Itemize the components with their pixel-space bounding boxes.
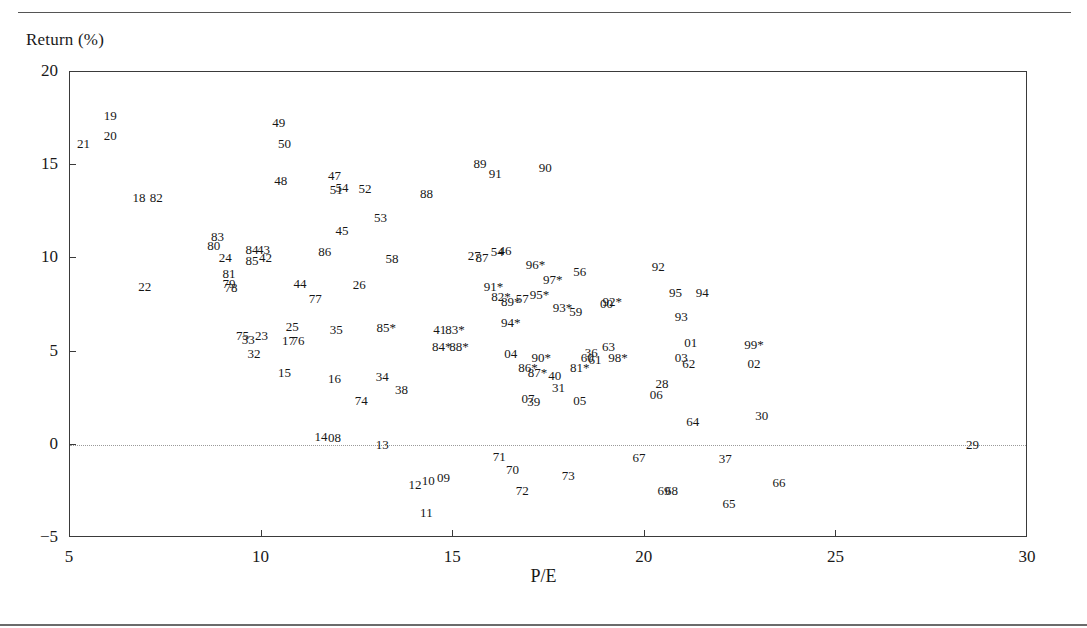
y-axis-tick-mark	[69, 444, 76, 445]
data-point-label: 05	[573, 394, 586, 407]
data-point-label: 20	[104, 129, 117, 142]
x-axis-tick-label: 5	[65, 547, 74, 567]
data-point-label: 67	[633, 450, 646, 463]
data-point-label: 12	[408, 477, 421, 490]
y-axis-tick-label: 0	[14, 434, 58, 454]
data-point-label: 91	[489, 166, 502, 179]
top-divider-rule	[18, 12, 1071, 13]
data-point-label: 97*	[543, 272, 563, 285]
data-point-label: 99*	[744, 338, 764, 351]
x-axis-tick-mark	[835, 530, 836, 537]
data-point-label: 82	[150, 190, 163, 203]
data-point-label: 50	[278, 136, 291, 149]
data-point-label: 76	[292, 334, 305, 347]
x-axis-tick-label: 10	[252, 547, 269, 567]
data-point-label: 68	[665, 483, 678, 496]
data-point-label: 19	[104, 108, 117, 121]
data-point-label: 52	[359, 181, 372, 194]
data-point-label: 62	[682, 356, 695, 369]
data-point-label: 04	[504, 347, 517, 360]
data-point-label: 34	[376, 369, 389, 382]
y-axis-title: Return (%)	[26, 30, 104, 50]
data-point-label: 44	[293, 276, 306, 289]
data-point-label: 14	[314, 430, 327, 443]
data-point-label: 54	[336, 180, 349, 193]
data-point-label: 31	[552, 381, 565, 394]
data-point-label: 89	[474, 157, 487, 170]
x-axis-tick-mark	[644, 530, 645, 537]
data-point-label: 49	[272, 116, 285, 129]
data-point-label: 26	[353, 278, 366, 291]
data-point-label: 88	[420, 187, 433, 200]
data-point-label: 02	[748, 356, 761, 369]
data-point-label: 22	[138, 280, 151, 293]
data-point-label: 32	[247, 347, 260, 360]
data-point-label: 53	[374, 211, 387, 224]
y-axis-tick-label: 15	[14, 154, 58, 174]
data-point-label: 15	[278, 366, 291, 379]
y-axis-tick-mark	[69, 351, 76, 352]
x-axis-tick-label: 20	[635, 547, 652, 567]
data-point-label: 13	[376, 437, 389, 450]
data-point-label: 58	[385, 252, 398, 265]
data-point-label: 74	[355, 394, 368, 407]
data-point-label: 29	[966, 437, 979, 450]
data-point-label: 25	[286, 319, 299, 332]
data-point-label: 96*	[526, 257, 546, 270]
data-point-label: 70	[506, 463, 519, 476]
data-point-label: 65	[723, 496, 736, 509]
data-point-label: 45	[336, 224, 349, 237]
data-point-label: 85*	[376, 321, 396, 334]
data-point-label: 95*	[530, 287, 550, 300]
data-point-label: 30	[755, 408, 768, 421]
x-axis-tick-label: 25	[827, 547, 844, 567]
data-point-label: 85	[246, 254, 259, 267]
data-point-label: 57	[516, 291, 529, 304]
data-point-label: 16	[328, 371, 341, 384]
data-point-label: 23	[255, 328, 268, 341]
data-point-label: 10	[422, 474, 435, 487]
zero-reference-line	[70, 445, 1026, 446]
x-axis-title: P/E	[0, 566, 1087, 587]
plot-area: 2119201882228380248179788443428549504847…	[69, 71, 1027, 537]
data-point-label: 72	[516, 483, 529, 496]
data-point-label: 90	[539, 161, 552, 174]
data-point-label: 21	[77, 136, 90, 149]
data-point-label: 71	[493, 449, 506, 462]
data-point-label: 64	[686, 414, 699, 427]
y-axis-tick-label: 10	[14, 247, 58, 267]
data-point-label: 93	[675, 310, 688, 323]
data-point-label: 77	[309, 291, 322, 304]
data-point-label: 38	[395, 382, 408, 395]
x-axis-tick-label: 15	[444, 547, 461, 567]
data-point-label: 94*	[501, 315, 521, 328]
data-point-label: 09	[437, 471, 450, 484]
data-point-label: 56	[573, 265, 586, 278]
y-axis-tick-mark	[69, 164, 76, 165]
y-axis-tick-label: 5	[14, 341, 58, 361]
data-point-label: 46	[498, 244, 511, 257]
data-point-label: 78	[224, 281, 237, 294]
scatter-plot-figure: Return (%) 21192018822283802481797884434…	[0, 0, 1087, 628]
data-point-label: 87	[475, 250, 488, 263]
data-point-label: 87*	[528, 366, 548, 379]
data-point-label: 95	[669, 285, 682, 298]
data-point-label: 06	[650, 388, 663, 401]
data-point-label: 92	[652, 259, 665, 272]
data-point-label: 88*	[449, 340, 469, 353]
data-point-label: 01	[684, 336, 697, 349]
data-point-label: 66	[772, 476, 785, 489]
data-point-label: 48	[274, 174, 287, 187]
data-point-label: 61	[588, 353, 601, 366]
data-point-label: 42	[259, 250, 272, 263]
data-point-label: 41	[433, 323, 446, 336]
data-point-label: 18	[132, 190, 145, 203]
data-point-label: 59	[569, 304, 582, 317]
y-axis-tick-label: −5	[14, 527, 58, 547]
data-point-label: 94	[696, 285, 709, 298]
data-point-label: 83*	[445, 323, 465, 336]
x-axis-tick-mark	[261, 530, 262, 537]
y-axis-tick-mark	[69, 257, 76, 258]
data-point-label: 24	[219, 250, 232, 263]
x-axis-tick-label: 30	[1019, 547, 1036, 567]
